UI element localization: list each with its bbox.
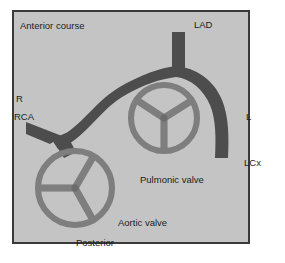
label-lad: LAD (194, 19, 213, 30)
label-rca: RCA (14, 111, 35, 122)
label-r: R (16, 93, 23, 104)
label-l: L (246, 111, 251, 122)
coronary-diagram-svg: Anterior course LAD R RCA L LCx Pulmonic… (0, 0, 285, 263)
coronary-diagram-figure: Anterior course LAD R RCA L LCx Pulmonic… (0, 0, 285, 263)
label-aortic-valve: Aortic valve (118, 217, 167, 228)
lad-vessel (172, 32, 185, 70)
label-pulmonic-valve: Pulmonic valve (140, 174, 204, 185)
label-lcx: LCx (244, 157, 261, 168)
label-anterior-course: Anterior course (20, 20, 84, 31)
label-posterior: Posterior (76, 237, 114, 248)
